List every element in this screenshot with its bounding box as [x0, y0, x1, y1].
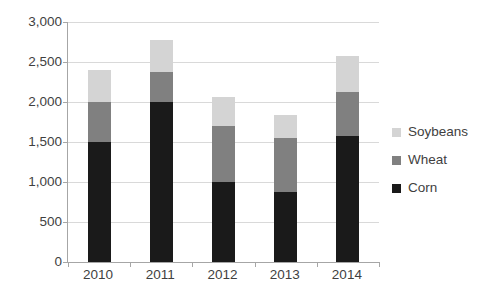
bar-group[interactable] — [88, 22, 111, 262]
legend-label: Wheat — [408, 153, 447, 167]
bar-segment-wheat[interactable] — [212, 126, 235, 182]
bar-segment-corn[interactable] — [274, 192, 297, 262]
bar-segment-corn[interactable] — [212, 182, 235, 262]
bar-segment-wheat[interactable] — [336, 92, 359, 135]
legend-swatch-icon — [392, 156, 401, 165]
bar-segment-soybeans[interactable] — [274, 115, 297, 138]
x-tick-mark — [379, 262, 380, 267]
legend-label: Corn — [408, 181, 437, 195]
x-tick-mark — [255, 262, 256, 267]
x-tick-label: 2012 — [193, 268, 253, 282]
legend-item-corn[interactable]: Corn — [392, 174, 484, 202]
y-tick-label: 2,000 — [4, 95, 62, 109]
x-tick-mark — [130, 262, 131, 267]
x-tick-mark — [192, 262, 193, 267]
y-tick-label: 2,500 — [4, 55, 62, 69]
bar-segment-corn[interactable] — [336, 136, 359, 262]
x-tick-label: 2014 — [317, 268, 377, 282]
x-tick-mark — [317, 262, 318, 267]
legend-item-soybeans[interactable]: Soybeans — [392, 118, 484, 146]
bar-segment-soybeans[interactable] — [336, 56, 359, 93]
bar-segment-corn[interactable] — [150, 102, 173, 262]
bar-group[interactable] — [274, 22, 297, 262]
bar-group[interactable] — [150, 22, 173, 262]
legend-swatch-icon — [392, 128, 401, 137]
y-tick-mark — [63, 222, 68, 223]
bar-group[interactable] — [336, 22, 359, 262]
y-tick-mark — [63, 62, 68, 63]
y-tick-label: 1,500 — [4, 135, 62, 149]
y-tick-label: 500 — [4, 215, 62, 229]
x-tick-label: 2011 — [130, 268, 190, 282]
plot-area — [67, 22, 379, 263]
stacked-bar-chart: 05001,0001,5002,0002,5003,000 2010201120… — [0, 0, 487, 301]
x-tick-label: 2013 — [255, 268, 315, 282]
legend-swatch-icon — [392, 184, 401, 193]
bar-segment-corn[interactable] — [88, 142, 111, 262]
y-tick-label: 0 — [4, 255, 62, 269]
x-tick-label: 2010 — [68, 268, 128, 282]
bar-segment-soybeans[interactable] — [88, 70, 111, 102]
bar-segment-wheat[interactable] — [88, 102, 111, 142]
x-axis-labels: 20102011201220132014 — [67, 268, 378, 292]
y-tick-mark — [63, 142, 68, 143]
chart-legend: SoybeansWheatCorn — [392, 118, 484, 202]
y-tick-mark — [63, 22, 68, 23]
bar-group[interactable] — [212, 22, 235, 262]
y-tick-mark — [63, 182, 68, 183]
bar-segment-soybeans[interactable] — [212, 97, 235, 126]
y-tick-label: 3,000 — [4, 15, 62, 29]
legend-label: Soybeans — [408, 125, 468, 139]
bar-segment-soybeans[interactable] — [150, 40, 173, 72]
y-tick-label: 1,000 — [4, 175, 62, 189]
x-tick-mark — [68, 262, 69, 267]
legend-item-wheat[interactable]: Wheat — [392, 146, 484, 174]
bar-segment-wheat[interactable] — [274, 138, 297, 192]
y-axis-labels: 05001,0001,5002,0002,5003,000 — [0, 22, 62, 262]
bar-segment-wheat[interactable] — [150, 72, 173, 102]
y-tick-mark — [63, 102, 68, 103]
